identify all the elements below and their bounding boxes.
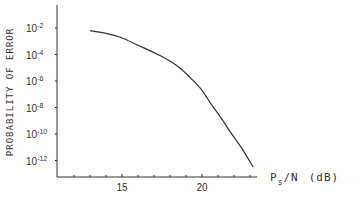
y-tick-label: 10-12 xyxy=(26,155,47,167)
y-tick-label: 10-4 xyxy=(26,49,43,61)
x-tick-label: 20 xyxy=(196,182,208,193)
x-label-main: P xyxy=(270,171,278,184)
x-axis-label: Ps/N(dB) xyxy=(270,171,339,187)
y-tick-label: 10-8 xyxy=(26,102,43,114)
y-tick-label: 10-2 xyxy=(26,22,43,34)
x-label-rest: /N xyxy=(283,171,298,184)
error-probability-chart: 1520 10-210-410-610-810-1010-12 PROBABIL… xyxy=(0,0,361,199)
y-tick-label: 10-10 xyxy=(26,128,47,140)
x-tick-label: 15 xyxy=(116,182,128,193)
x-label-unit: (dB) xyxy=(309,171,340,184)
y-tick-label: 10-6 xyxy=(26,75,43,87)
y-axis-label: PROBABILITY OF ERROR xyxy=(5,28,15,156)
error-curve xyxy=(90,31,253,167)
